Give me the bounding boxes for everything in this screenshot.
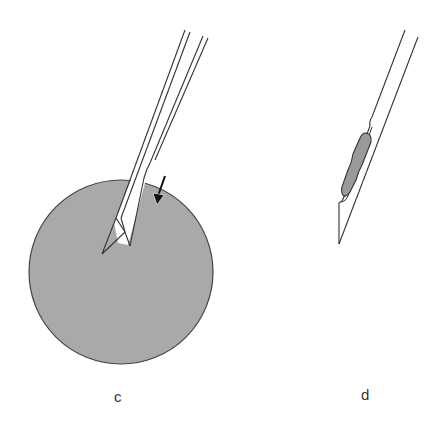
panel-label-d: d <box>361 386 369 403</box>
panel-label-c: c <box>114 388 122 405</box>
needle-with-sample <box>337 30 418 248</box>
diagram <box>0 0 439 433</box>
